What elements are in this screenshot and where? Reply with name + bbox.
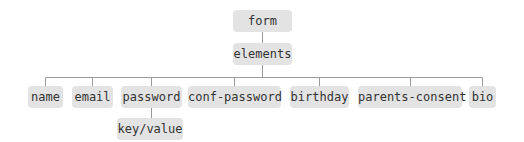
node-password: password bbox=[121, 86, 182, 108]
node-name: name bbox=[28, 86, 63, 108]
node-form: form bbox=[233, 10, 292, 32]
node-bio: bio bbox=[469, 86, 496, 108]
node-key-value: key/value bbox=[117, 118, 183, 140]
node-birthday: birthday bbox=[290, 86, 349, 108]
node-parents-consent: parents-consent bbox=[358, 86, 462, 108]
node-elements: elements bbox=[233, 43, 292, 65]
node-conf-password: conf-password bbox=[188, 86, 281, 108]
node-email: email bbox=[72, 86, 113, 108]
